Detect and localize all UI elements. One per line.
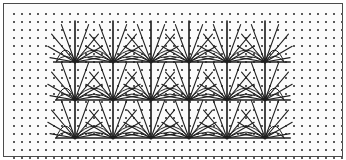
figure-frame bbox=[3, 3, 343, 157]
pattern-figure: Fan-stitch pattern chart Repeating scall… bbox=[0, 0, 346, 160]
dot-grid-background bbox=[8, 8, 346, 160]
